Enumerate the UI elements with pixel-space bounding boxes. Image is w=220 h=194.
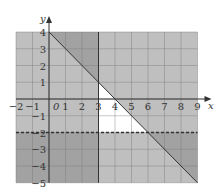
x-tick-label: 8 [178,101,184,112]
y-tick-label: −2 [31,128,46,139]
y-axis-arrow-icon [46,16,52,23]
y-tick-label: 4 [40,27,46,38]
y-axis-label: y [39,13,46,24]
x-tick-label: 3 [95,101,101,112]
origin-label: 0 [53,101,60,112]
x-tick-label: 5 [128,101,134,112]
y-tick-label: −3 [31,144,46,155]
x-tick-label: −2 [9,101,24,112]
x-tick-label: 6 [145,101,151,112]
shaded-region-3 [16,133,198,183]
x-axis-label: x [208,100,214,111]
y-tick-label: 2 [40,61,46,72]
x-tick-label: 1 [62,101,68,112]
inequality-graph: −2−11234567894321−1−2−3−4−5 x y 0 [0,0,220,194]
x-tick-label: 9 [194,101,200,112]
y-tick-label: −4 [31,161,46,172]
y-tick-label: 1 [40,77,46,88]
x-tick-label: 2 [79,101,85,112]
y-tick-label: −1 [31,111,46,122]
x-tick-label: 4 [112,101,118,112]
x-tick-label: 7 [161,101,167,112]
y-tick-label: 3 [40,44,46,55]
y-tick-label: −5 [31,178,46,189]
